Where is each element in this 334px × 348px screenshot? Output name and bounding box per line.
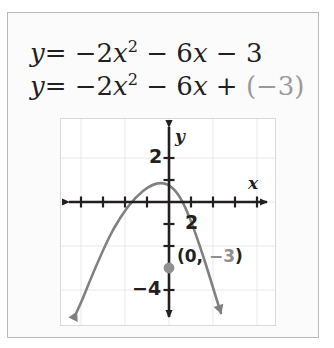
equation-original-constant: 3 [246,38,263,68]
y-axis [164,127,175,317]
equation-rewritten-coef-linear: 6 [176,71,193,101]
equation-original-lhs: y [30,38,45,68]
y-intercept-annotation-value: −3 [209,246,235,266]
equation-rewritten-var-sq: x [113,71,128,101]
equation-original-op1: − [146,38,168,68]
y-axis-label: y [175,126,185,146]
coordinate-plane-svg [61,119,275,325]
y-intercept-annotation-suffix: ) [235,246,243,266]
equation-original-equals: = [45,38,67,68]
y-tick-label-neg4: −4 [132,277,161,299]
y-intercept-point [164,263,175,274]
equation-rewritten-equals: = [45,71,67,101]
equation-original-var-linear: x [193,38,208,68]
equation-rewritten-constant-highlighted: (−3) [246,71,305,101]
equation-original-op2: − [216,38,238,68]
y-intercept-annotation-prefix: (0, [177,246,209,266]
equation-original-coef-linear: 6 [176,38,193,68]
figure-panel: y= −2x2 − 6x − 3 y= −2x2 − 6x + (−3) [7,12,319,338]
equation-rewritten-op1: − [146,71,168,101]
equation-original-exponent: 2 [128,37,138,56]
equation-rewritten-exponent: 2 [128,70,138,89]
graph-frame: y x 2 2 −4 (0, −3) [60,118,276,326]
equation-rewritten-op2: + [216,71,238,101]
equation-rewritten-coef-quadratic: −2 [75,71,113,101]
equations-block: y= −2x2 − 6x − 3 y= −2x2 − 6x + (−3) [30,37,320,103]
equation-rewritten-var-linear: x [193,71,208,101]
x-tick-label-2: 2 [185,211,198,233]
y-intercept-annotation: (0, −3) [177,246,243,266]
equation-original-var-sq: x [113,38,128,68]
y-tick-label-2: 2 [149,145,162,167]
x-axis-label: x [248,173,258,193]
equation-rewritten: y= −2x2 − 6x + (−3) [30,70,320,103]
equation-original: y= −2x2 − 6x − 3 [30,37,320,70]
figure-root: y= −2x2 − 6x − 3 y= −2x2 − 6x + (−3) [0,0,334,348]
equation-rewritten-lhs: y [30,71,45,101]
equation-original-coef-quadratic: −2 [75,38,113,68]
